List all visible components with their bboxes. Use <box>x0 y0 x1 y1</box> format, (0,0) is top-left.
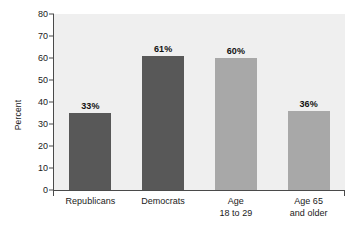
x-axis-category-label: Age18 to 29 <box>200 196 273 219</box>
x-axis-category-label-line: Age <box>200 196 273 208</box>
y-axis-tick-label: 20 <box>38 142 48 151</box>
bar-slot: 33% <box>54 14 127 190</box>
bar-slot: 61% <box>127 14 200 190</box>
bar-value-label: 61% <box>154 44 172 54</box>
y-axis-title: Percent <box>10 0 26 230</box>
x-axis-line <box>53 190 345 191</box>
y-axis-tick-label: 0 <box>43 186 48 195</box>
bar-value-label: 33% <box>81 101 99 111</box>
bar[interactable] <box>215 58 257 190</box>
x-axis-category-label: Age 65and older <box>272 196 345 219</box>
bar-value-label: 60% <box>227 46 245 56</box>
y-axis-title-text: Percent <box>13 100 23 131</box>
plot-area: 33%61%60%36% <box>54 14 345 190</box>
y-axis-tick-mark <box>49 168 54 169</box>
x-axis-category-label-line: Republicans <box>54 196 127 208</box>
bar[interactable] <box>69 113 111 190</box>
x-axis-category-label-line: Age 65 <box>272 196 345 208</box>
y-axis-tick-mark <box>49 190 54 191</box>
y-axis-tick-mark <box>49 36 54 37</box>
x-axis-category-label-line: 18 to 29 <box>200 208 273 220</box>
y-axis-tick-label: 40 <box>38 98 48 107</box>
y-axis-tick-label: 10 <box>38 164 48 173</box>
y-axis-tick-label: 50 <box>38 76 48 85</box>
y-axis-tick-label: 80 <box>38 10 48 19</box>
bar-slot: 36% <box>272 14 345 190</box>
x-axis-category-label: Republicans <box>54 196 127 208</box>
y-axis-tick-mark <box>49 80 54 81</box>
y-axis-tick-mark <box>49 146 54 147</box>
x-axis-category-label: Democrats <box>127 196 200 208</box>
bar[interactable] <box>288 111 330 190</box>
y-axis-tick-mark <box>49 58 54 59</box>
x-axis-category-label-line: Democrats <box>127 196 200 208</box>
x-axis-category-labels: RepublicansDemocratsAge18 to 29Age 65and… <box>54 196 345 230</box>
bar-slot: 60% <box>200 14 273 190</box>
x-axis-category-label-line: and older <box>272 208 345 220</box>
bar-chart: Percent 01020304050607080 33%61%60%36% R… <box>0 0 356 230</box>
y-axis-tick-label: 60 <box>38 54 48 63</box>
bar[interactable] <box>142 56 184 190</box>
y-axis-tick-label: 30 <box>38 120 48 129</box>
bar-value-label: 36% <box>300 99 318 109</box>
y-axis-tick-mark <box>49 102 54 103</box>
y-axis-tick-mark <box>49 124 54 125</box>
y-axis-tick-label: 70 <box>38 32 48 41</box>
y-axis-tick-mark <box>49 14 54 15</box>
y-axis-tick-labels: 01020304050607080 <box>26 14 48 190</box>
